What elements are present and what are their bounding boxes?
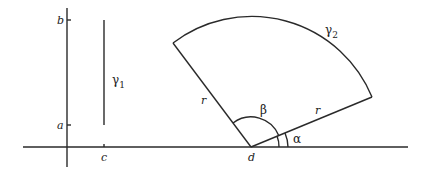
label-gamma1: γ1 [112, 73, 125, 90]
label-d: d [248, 151, 255, 164]
label-beta: β [260, 103, 267, 117]
label-r-left: r [201, 94, 207, 107]
label-b: b [57, 14, 64, 27]
alpha-arc-inner [277, 136, 279, 147]
label-r-right: r [315, 104, 321, 117]
gamma2-arc [173, 16, 372, 97]
label-gamma2: γ2 [325, 23, 338, 40]
label-c: c [101, 151, 107, 164]
diagram-canvas: b a c γ1 d r r β α γ2 [0, 0, 428, 174]
label-a: a [57, 119, 64, 132]
radius-left [173, 43, 251, 147]
label-alpha: α [293, 132, 301, 146]
alpha-arc-outer [285, 133, 288, 147]
